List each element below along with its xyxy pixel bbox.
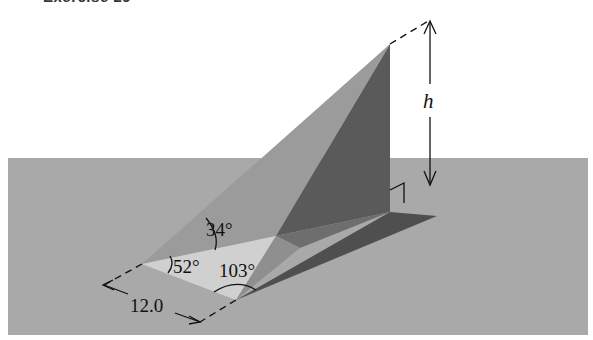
angle-label-34: 34°	[206, 219, 233, 240]
base-length-label: 12.0	[130, 295, 163, 316]
angle-label-103: 103°	[219, 260, 255, 281]
geometry-figure: h 34° 52° 103° 12.0	[0, 0, 593, 340]
angle-label-52: 52°	[173, 256, 200, 277]
height-label: h	[423, 89, 434, 113]
height-dashed-line	[390, 20, 430, 44]
